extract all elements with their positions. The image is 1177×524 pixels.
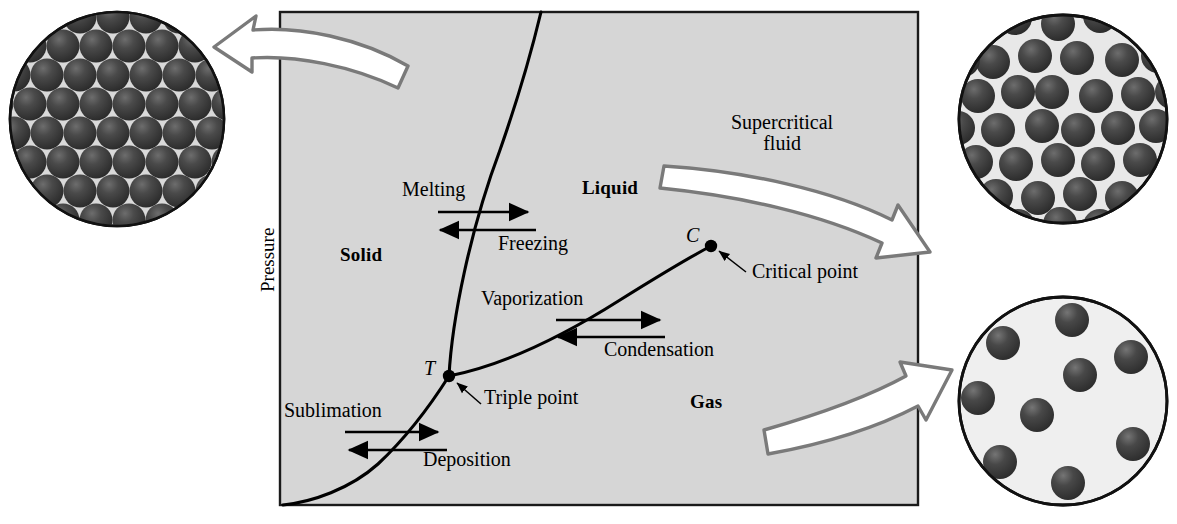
process-label-condensation: Condensation bbox=[604, 339, 714, 360]
region-label-liquid: Liquid bbox=[582, 178, 638, 198]
region-label-solid: Solid bbox=[340, 245, 382, 265]
liquid-molecular-inset bbox=[941, 0, 1177, 243]
critical-point-symbol: C bbox=[686, 225, 699, 246]
triple-point-dot bbox=[443, 370, 455, 382]
process-label-vaporization: Vaporization bbox=[481, 288, 583, 309]
gas-molecular-inset bbox=[959, 297, 1167, 505]
process-label-freezing: Freezing bbox=[498, 233, 568, 254]
diagram-canvas bbox=[0, 0, 1177, 524]
solid-molecular-inset bbox=[0, 1, 245, 237]
critical-point-label: Critical point bbox=[752, 261, 858, 282]
process-label-sublimation: Sublimation bbox=[284, 400, 382, 421]
axis-label-pressure: Pressure bbox=[258, 228, 278, 292]
process-label-melting: Melting bbox=[402, 179, 465, 200]
region-label-gas: Gas bbox=[690, 392, 722, 412]
triple-point-symbol: T bbox=[424, 358, 435, 379]
triple-point-label: Triple point bbox=[484, 387, 578, 408]
phase-diagram-figure: Pressure Solid Liquid Gas Supercritical … bbox=[0, 0, 1177, 524]
process-label-deposition: Deposition bbox=[423, 449, 511, 470]
critical-point-dot bbox=[705, 240, 717, 252]
region-label-supercritical-fluid: Supercritical fluid bbox=[731, 112, 833, 154]
solid-particles bbox=[0, 1, 245, 237]
